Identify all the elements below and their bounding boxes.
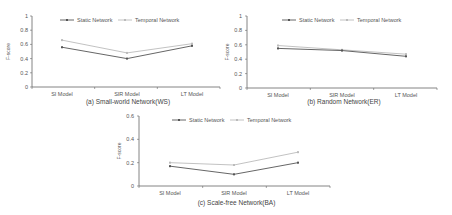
data-point-marker: [297, 162, 299, 164]
chart-panel-1: 00.20.40.60.81SI ModelSIR ModelLT ModelF…: [224, 13, 437, 106]
chart-panel-0: 00.20.40.60.81SI ModelSIR ModelLT ModelF…: [5, 13, 220, 106]
data-point-marker: [61, 46, 63, 48]
legend-label: Static Network: [189, 117, 225, 123]
legend-label: Temporal Network: [135, 17, 180, 23]
data-point-marker: [405, 53, 407, 55]
data-point-marker: [341, 50, 343, 52]
y-tick-label: 0: [25, 84, 28, 90]
x-category-label: LT Model: [395, 92, 417, 98]
x-category-label: SI Model: [51, 91, 73, 97]
data-point-marker: [191, 45, 193, 47]
y-tick-label: 0.8: [234, 27, 242, 33]
legend-marker-icon: [236, 119, 238, 121]
y-tick-label: 1: [239, 13, 242, 19]
legend-label: Temporal Network: [247, 117, 292, 123]
data-point-marker: [277, 45, 279, 47]
legend-label: Static Network: [77, 17, 113, 23]
data-point-marker: [61, 39, 63, 41]
data-point-marker: [233, 164, 235, 166]
data-point-marker: [126, 52, 128, 54]
data-point-marker: [169, 162, 171, 164]
y-tick-label: 0.4: [20, 56, 28, 62]
chart-panel-2: 00.20.40.6SI ModelSIR ModelLT ModelF-sco…: [116, 113, 330, 207]
x-category-label: LT Model: [287, 190, 309, 196]
data-point-marker: [126, 58, 128, 60]
y-axis-label: F-score: [224, 43, 230, 60]
data-point-marker: [169, 165, 171, 167]
data-point-marker: [233, 173, 235, 175]
series-line: [170, 152, 298, 165]
y-tick-label: 1: [25, 13, 28, 19]
legend-label: Temporal Network: [357, 17, 402, 23]
x-category-label: SI Model: [267, 92, 289, 98]
x-category-label: LT Model: [181, 91, 203, 97]
legend-marker-icon: [124, 19, 126, 21]
chart-caption: (b) Random Network(ER): [307, 98, 380, 106]
y-tick-label: 0.8: [20, 27, 28, 33]
data-point-marker: [297, 151, 299, 153]
chart-caption: (c) Scale-free Network(BA): [198, 199, 276, 207]
y-axis-label: F-score: [5, 43, 11, 60]
chart-caption: (a) Small-world Network(WS): [86, 98, 170, 106]
legend-marker-icon: [66, 19, 68, 21]
x-category-label: SIR Model: [114, 91, 140, 97]
y-tick-label: 0: [131, 183, 134, 189]
y-tick-label: 0.2: [126, 160, 134, 166]
figure-canvas: 00.20.40.60.81SI ModelSIR ModelLT ModelF…: [0, 0, 452, 215]
data-point-marker: [277, 47, 279, 49]
x-category-label: SI Model: [159, 190, 181, 196]
y-tick-label: 0: [239, 85, 242, 91]
y-tick-label: 0.6: [20, 41, 28, 47]
y-axis-label: F-score: [116, 142, 122, 159]
legend-marker-icon: [288, 19, 290, 21]
legend-label: Static Network: [299, 17, 335, 23]
data-point-marker: [191, 43, 193, 45]
y-tick-label: 0.4: [234, 56, 242, 62]
x-category-label: SIR Model: [221, 190, 247, 196]
y-tick-label: 0.6: [234, 42, 242, 48]
legend-marker-icon: [346, 19, 348, 21]
y-tick-label: 0.2: [20, 70, 28, 76]
y-tick-label: 0.4: [126, 136, 134, 142]
y-tick-label: 0.2: [234, 71, 242, 77]
y-tick-label: 0.6: [126, 113, 134, 119]
data-point-marker: [405, 55, 407, 57]
legend-marker-icon: [178, 119, 180, 121]
